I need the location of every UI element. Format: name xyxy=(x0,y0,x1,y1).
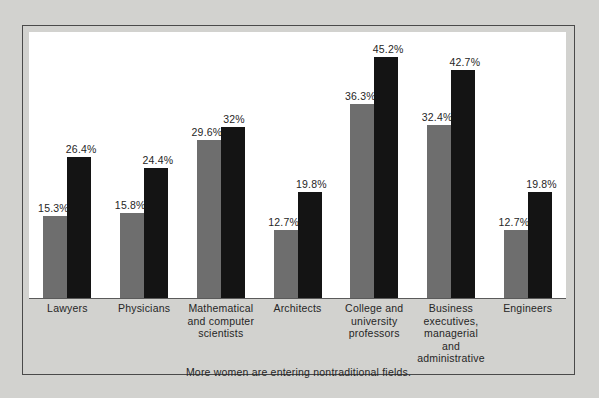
bar-value-label: 12.7% xyxy=(268,216,299,228)
bar-group-lawyers: 15.3% 26.4% xyxy=(29,32,106,298)
bar-1983: 29.6% xyxy=(197,140,221,298)
bar-group-college-and-university-professors: 36.3% 45.2% xyxy=(336,32,413,298)
bar-groups: 15.3% 26.4% 15.8% 24.4% xyxy=(29,32,566,298)
x-label-line: executives, xyxy=(415,315,488,328)
x-label-engineers: Engineers xyxy=(489,302,566,315)
x-label-line: managerial and xyxy=(415,327,488,352)
bar-pair: 29.6% 32% xyxy=(197,32,245,298)
bar-value-label: 19.8% xyxy=(296,178,327,190)
x-label-line: university xyxy=(338,315,411,328)
x-label-line: scientists xyxy=(184,327,257,340)
bar-1983: 12.7% xyxy=(274,230,298,298)
bar-group-physicians: 15.8% 24.4% xyxy=(106,32,183,298)
x-label-physicians: Physicians xyxy=(106,302,183,315)
chart-caption: More women are entering nontraditional f… xyxy=(23,366,574,378)
bar-1983: 32.4% xyxy=(427,125,451,298)
x-label-line: professors xyxy=(338,327,411,340)
bar-pair: 15.3% 26.4% xyxy=(43,32,91,298)
bar-1995: 19.8% xyxy=(298,192,322,298)
bar-1983: 36.3% xyxy=(350,104,374,298)
x-axis-labels: Lawyers Physicians Mathematical and comp… xyxy=(29,302,566,365)
bar-1983: 15.8% xyxy=(120,213,144,298)
x-label-line: Architects xyxy=(261,302,334,315)
bar-1995: 19.8% xyxy=(528,192,552,298)
bar-1995: 45.2% xyxy=(374,57,398,298)
bar-value-label: 45.2% xyxy=(373,43,404,55)
bar-1983: 12.7% xyxy=(504,230,528,298)
x-label-architects: Architects xyxy=(259,302,336,315)
bar-value-label: 42.7% xyxy=(449,56,480,68)
bar-1995: 24.4% xyxy=(144,168,168,298)
x-label-college-and-university-professors: College and university professors xyxy=(336,302,413,340)
x-label-line: and computer xyxy=(184,315,257,328)
bar-1983: 15.3% xyxy=(43,216,67,298)
bar-group-business-executives-managerial-and-administrative: 32.4% 42.7% xyxy=(413,32,490,298)
bar-group-architects: 12.7% 19.8% xyxy=(259,32,336,298)
x-label-mathematical-and-computer-scientists: Mathematical and computer scientists xyxy=(182,302,259,340)
bar-value-label: 15.3% xyxy=(38,202,69,214)
x-label-line: Physicians xyxy=(108,302,181,315)
plot-area: 15.3% 26.4% 15.8% 24.4% xyxy=(29,32,566,299)
x-label-lawyers: Lawyers xyxy=(29,302,106,315)
chart-frame: 1983 1995 15.3% 26.4% xyxy=(22,25,575,375)
bar-group-engineers: 12.7% 19.8% xyxy=(489,32,566,298)
x-label-line: administrative xyxy=(415,352,488,365)
bar-value-label: 32% xyxy=(223,113,245,125)
bar-1995: 32% xyxy=(221,127,245,298)
bar-1995: 26.4% xyxy=(67,157,91,298)
bar-value-label: 26.4% xyxy=(66,143,97,155)
bar-value-label: 36.3% xyxy=(345,90,376,102)
bar-pair: 15.8% 24.4% xyxy=(120,32,168,298)
bar-value-label: 19.8% xyxy=(526,178,557,190)
bar-value-label: 12.7% xyxy=(498,216,529,228)
bar-value-label: 29.6% xyxy=(192,126,223,138)
bar-pair: 12.7% 19.8% xyxy=(504,32,552,298)
bar-value-label: 32.4% xyxy=(422,111,453,123)
x-label-line: Lawyers xyxy=(31,302,104,315)
bar-pair: 36.3% 45.2% xyxy=(350,32,398,298)
bar-group-mathematical-and-computer-scientists: 29.6% 32% xyxy=(182,32,259,298)
bar-pair: 12.7% 19.8% xyxy=(274,32,322,298)
bar-1995: 42.7% xyxy=(451,70,475,298)
x-label-line: Business xyxy=(415,302,488,315)
bar-value-label: 15.8% xyxy=(115,199,146,211)
x-label-line: College and xyxy=(338,302,411,315)
x-label-line: Mathematical xyxy=(184,302,257,315)
bar-value-label: 24.4% xyxy=(143,154,174,166)
x-label-business-executives-managerial-and-administrative: Business executives, managerial and admi… xyxy=(413,302,490,365)
x-label-line: Engineers xyxy=(491,302,564,315)
bar-pair: 32.4% 42.7% xyxy=(427,32,475,298)
bar-chart-figure: 1983 1995 15.3% 26.4% xyxy=(0,0,599,398)
